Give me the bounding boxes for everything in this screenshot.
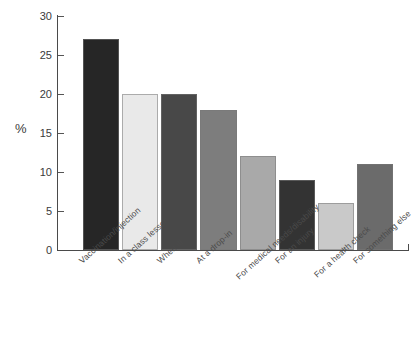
x-axis-right-cap — [408, 244, 409, 251]
y-tick-mark — [57, 172, 64, 173]
bar — [200, 110, 236, 250]
y-tick-label: 15 — [26, 128, 52, 139]
x-axis-line — [57, 250, 409, 251]
y-tick-mark — [57, 211, 64, 212]
bar — [240, 156, 276, 250]
y-tick-mark — [57, 55, 64, 56]
y-axis-line — [57, 15, 58, 251]
y-tick-mark — [57, 94, 64, 95]
y-tick-label: 5 — [26, 206, 52, 217]
y-tick-mark — [57, 133, 64, 134]
y-tick-label: 30 — [26, 11, 52, 22]
bar — [83, 39, 119, 250]
y-tick-label: 25 — [26, 50, 52, 61]
y-tick-label: 20 — [26, 89, 52, 100]
y-tick-label: 0 — [26, 245, 52, 256]
bar-chart: % 051015202530 Vaccination/injectionIn a… — [0, 0, 418, 347]
y-tick-label: 10 — [26, 167, 52, 178]
bar — [161, 94, 197, 250]
y-tick-mark — [57, 16, 64, 17]
